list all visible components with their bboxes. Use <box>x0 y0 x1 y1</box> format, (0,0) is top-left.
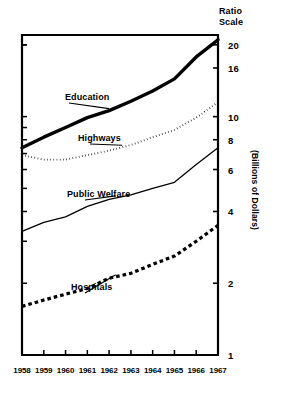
series-line-education <box>22 40 218 148</box>
x-tick-label: 1958 <box>13 366 30 375</box>
y-tick-label: 8 <box>228 134 233 145</box>
x-tick-label: 1959 <box>35 366 52 375</box>
x-tick-label: 1962 <box>100 366 117 375</box>
y-tick-label: 4 <box>228 206 233 217</box>
axis-ticks <box>22 45 218 355</box>
x-tick-label: 1960 <box>57 366 74 375</box>
y-tick-label: 2 <box>228 278 233 289</box>
chart-figure: Ratio Scale (Billions of Dollars) 124681… <box>0 0 285 393</box>
leader-line <box>69 103 109 109</box>
series-label-highways: Highways <box>78 133 121 143</box>
x-tick-label: 1967 <box>209 366 226 375</box>
series-label-education: Education <box>65 92 109 102</box>
data-series-group <box>22 40 218 307</box>
y-tick-label: 20 <box>228 39 239 50</box>
x-tick-label: 1963 <box>122 366 139 375</box>
series-label-hospitals: Hospitals <box>71 282 112 292</box>
series-line-hospitals <box>22 225 218 306</box>
y-tick-label: 6 <box>228 164 233 175</box>
series-label-public-welfare: Public Welfare <box>67 189 130 199</box>
y-tick-label: 1 <box>228 350 233 361</box>
y-tick-label: 10 <box>228 111 239 122</box>
y-tick-label: 16 <box>228 62 239 73</box>
x-tick-label: 1964 <box>144 366 161 375</box>
leader-line <box>90 144 122 145</box>
plot-area <box>0 0 285 393</box>
x-tick-label: 1965 <box>166 366 183 375</box>
series-line-highways <box>22 102 218 159</box>
x-tick-label: 1966 <box>188 366 205 375</box>
x-tick-label: 1961 <box>79 366 96 375</box>
